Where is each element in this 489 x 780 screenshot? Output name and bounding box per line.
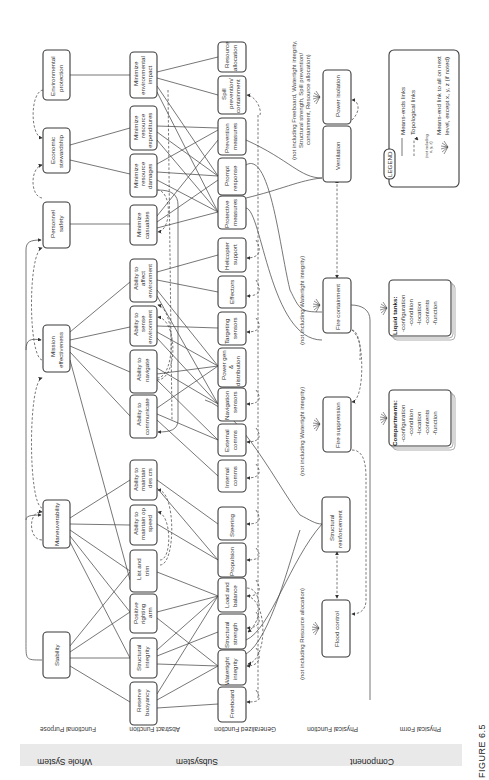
svg-text:Structural: Structural: [328, 515, 335, 541]
node-power-isolation[interactable]: Power isolation: [323, 70, 351, 124]
svg-text:protection: protection: [57, 64, 64, 92]
svg-text:buoyancy: buoyancy: [143, 689, 150, 716]
node-navigation-sensors[interactable]: Navigation sensors: [218, 388, 246, 421]
node-ability-maintain-des-crs[interactable]: Ability to maintain des crs: [130, 460, 157, 500]
svg-text:environment: environment: [146, 310, 153, 344]
svg-text:arm: arm: [146, 607, 153, 618]
burst-icon: [380, 412, 387, 425]
svg-text:Protective: Protective: [223, 200, 230, 228]
svg-text:containment: containment: [234, 79, 241, 113]
svg-text:Ability to: Ability to: [135, 357, 142, 381]
node-reserve-buoyancy[interactable]: Reserve buoyancy: [130, 682, 157, 725]
node-resource-allocation[interactable]: Resource allocation: [218, 41, 246, 72]
node-protective-measures[interactable]: Protective measures: [218, 196, 246, 229]
node-economic-stewardship[interactable]: Economic stewardship: [43, 128, 70, 173]
node-spill-prevention[interactable]: Spill prevention/ containment: [218, 76, 246, 114]
svg-text:Internal: Internal: [223, 467, 230, 488]
node-min-casualties[interactable]: Minimize casualties: [130, 205, 157, 245]
node-stability[interactable]: Stability: [43, 632, 70, 678]
svg-text:safety: safety: [57, 215, 64, 232]
svg-text:Mission: Mission: [49, 335, 56, 357]
group-whole-system: Whole System: [37, 757, 92, 767]
burst-icon: [313, 418, 320, 431]
node-environmental-protection[interactable]: Environmental protection: [43, 50, 70, 100]
svg-text:resource: resource: [139, 161, 146, 186]
node-effectors[interactable]: Effectors: [218, 276, 246, 308]
node-internal-comms[interactable]: Internal comms: [218, 460, 246, 492]
node-prevention-measures[interactable]: Prevention measures: [218, 118, 246, 155]
level-generalized-function: Generalized Function: [214, 726, 276, 733]
node-watertight-integrity[interactable]: Watertight integrity: [218, 650, 246, 685]
legend-burst-desc-2: level, except x, y, z (if noted): [443, 57, 450, 135]
svg-text:Targeting: Targeting: [223, 318, 230, 344]
svg-text:Minimize: Minimize: [135, 212, 142, 237]
node-freeboard[interactable]: Freeboard: [218, 687, 246, 722]
node-min-env-impact[interactable]: Minimize environmental impact: [130, 52, 157, 98]
node-structural-reinforcement[interactable]: Structural reinforcement: [322, 497, 350, 552]
svg-text:navigate: navigate: [143, 358, 150, 382]
svg-text:Flood control: Flood control: [333, 611, 340, 647]
node-flood-control[interactable]: Flood control: [322, 600, 350, 657]
svg-text:measures: measures: [231, 199, 238, 226]
node-ability-maintain-op-speed[interactable]: Ability to maintain op speed: [130, 505, 157, 545]
node-ability-affect-environment[interactable]: Ability to affect environment: [130, 259, 157, 302]
node-structural-integrity[interactable]: Structural integrity: [130, 638, 157, 678]
node-mission-effectiveness[interactable]: Mission effectiveness: [43, 325, 70, 372]
node-helicopter-support[interactable]: Helicopter support: [218, 238, 246, 272]
node-ability-communicate[interactable]: Ability to communicate: [130, 395, 157, 438]
svg-text:distribution: distribution: [234, 356, 241, 386]
svg-text:communicate: communicate: [143, 398, 150, 435]
node-positive-righting-arm[interactable]: Positive righting arm: [130, 594, 157, 633]
node-external-comms[interactable]: External comms: [218, 424, 246, 456]
level-physical-function: Physical Function: [307, 725, 358, 733]
note-power-isolation: (not including Freeboard, Watertight int…: [291, 40, 297, 160]
svg-text:Ability to: Ability to: [132, 266, 139, 290]
node-personnel-safety[interactable]: Personnel safety: [43, 202, 70, 248]
svg-text:casualties: casualties: [143, 211, 150, 239]
node-fire-containment[interactable]: Fire containment: [323, 278, 351, 333]
svg-text:Effectors: Effectors: [228, 280, 235, 304]
node-fire-suppression[interactable]: Fire suppression: [323, 397, 351, 452]
svg-text:des crs: des crs: [146, 468, 153, 488]
svg-text:List and: List and: [135, 558, 142, 580]
node-min-resource-expenditures[interactable]: Minimize resource expenditures: [130, 106, 157, 150]
physical-function-level: Power isolation Ventilation Fire contain…: [291, 40, 351, 680]
node-ability-navigate[interactable]: Ability to navigate: [130, 350, 157, 393]
group-subsystem: Subsystem: [176, 757, 218, 767]
node-ventilation[interactable]: Ventilation: [323, 126, 351, 182]
level-abstract-function: Abstract Function: [129, 726, 180, 733]
node-steering[interactable]: Steering: [218, 507, 246, 540]
svg-text:Minimize: Minimize: [132, 115, 139, 140]
node-min-resource-damages[interactable]: Minimize resource damages: [130, 154, 157, 197]
generalized-function-level: Resource allocation Spill prevention/ co…: [218, 41, 246, 722]
node-structural-strength[interactable]: Structural strength: [218, 614, 246, 649]
svg-text:reinforcement: reinforcement: [336, 510, 343, 548]
svg-text:Structural: Structural: [135, 645, 142, 671]
figure-caption: FIGURE 6.5: [477, 724, 487, 778]
node-compartments[interactable]: Compartments: -configuration -condition …: [380, 390, 455, 450]
svg-text:Resource: Resource: [223, 41, 230, 68]
svg-text:integrity: integrity: [143, 645, 150, 668]
svg-text:Ability to: Ability to: [132, 312, 139, 336]
svg-text:comms: comms: [231, 430, 238, 450]
node-propulsion[interactable]: Propulsion: [218, 543, 246, 577]
svg-text:stewardship: stewardship: [57, 134, 64, 168]
node-power-gen-distribution[interactable]: Power gen & distribution: [218, 348, 246, 387]
svg-text:Steering: Steering: [228, 513, 235, 537]
node-ability-sense-environment[interactable]: Ability to sense environment: [130, 306, 157, 346]
node-maneuverability[interactable]: Maneuverability: [43, 500, 70, 548]
svg-text:Propulsion: Propulsion: [228, 546, 235, 576]
svg-text:Watertight: Watertight: [223, 657, 230, 685]
node-liquid-tanks[interactable]: Liquid tanks: -configuration -condition …: [380, 280, 455, 340]
group-component: Component: [349, 757, 394, 767]
svg-text:Load and: Load and: [223, 582, 230, 608]
svg-text:impact: impact: [146, 65, 153, 84]
svg-text:integrity: integrity: [231, 657, 238, 680]
node-list-and-trim[interactable]: List and trim: [130, 550, 157, 592]
node-targeting-sensors[interactable]: Targeting sensors: [218, 312, 246, 345]
svg-text:affect: affect: [139, 271, 146, 286]
svg-text:damages: damages: [146, 164, 153, 189]
svg-text:Fire containment: Fire containment: [334, 284, 341, 330]
node-load-and-balance[interactable]: Load and balance: [218, 578, 246, 612]
node-prompt-response[interactable]: Prompt response: [218, 158, 246, 195]
